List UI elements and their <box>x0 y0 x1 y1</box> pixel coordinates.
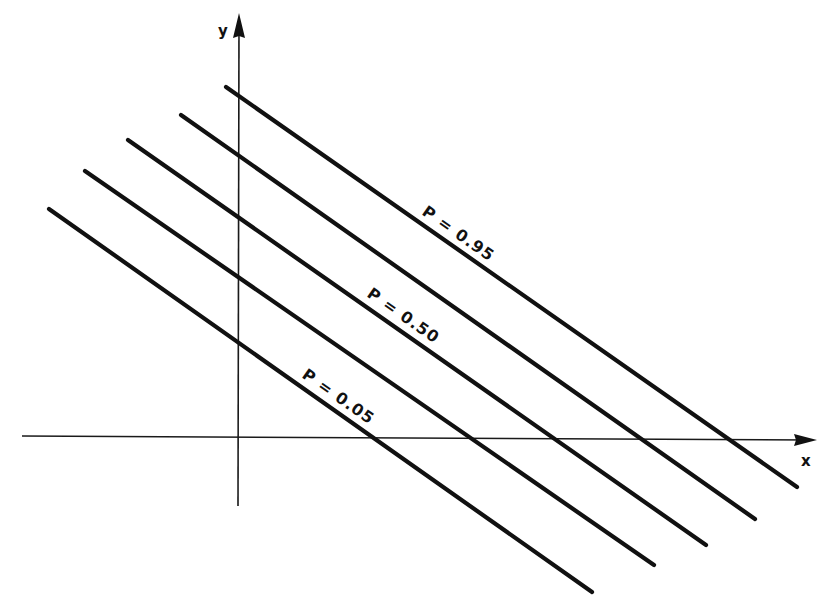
y-axis <box>238 20 239 506</box>
probability-line-3 <box>128 140 706 545</box>
y-axis-arrow-icon <box>233 13 245 38</box>
probability-line-5 <box>226 87 797 487</box>
x-axis-arrow-icon <box>794 434 817 446</box>
probability-lines-diagram: x y P = 0.95 P = 0.50 P = 0.05 <box>0 0 833 605</box>
y-axis-label: y <box>218 22 228 40</box>
probability-line-1 <box>49 209 592 592</box>
x-axis <box>22 436 810 440</box>
label-p-005: P = 0.05 <box>299 365 379 429</box>
probability-line-4 <box>181 115 755 519</box>
x-axis-label: x <box>801 452 811 470</box>
label-p-095: P = 0.95 <box>419 202 499 266</box>
probability-line-2 <box>85 171 654 565</box>
